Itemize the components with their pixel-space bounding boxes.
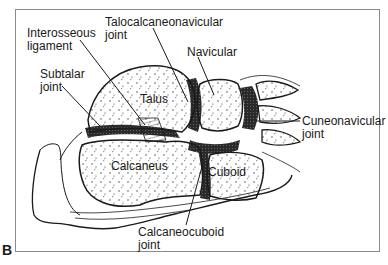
label-line: joint [302, 128, 385, 141]
label-interosseous-ligament: Interosseous ligament [27, 27, 96, 53]
label-line: ligament [27, 40, 96, 53]
label-navicular: Navicular [187, 46, 237, 59]
label-line: joint [138, 239, 224, 252]
label-line: joint [40, 81, 85, 94]
label-calcaneus: Calcaneus [111, 160, 168, 173]
label-talocalcaneonavicular-joint: Talocalcaneonavicular joint [105, 16, 223, 42]
navicular-bone [197, 80, 242, 131]
label-subtalar-joint: Subtalar joint [40, 68, 85, 94]
label-cuboid: Cuboid [208, 166, 246, 179]
label-talus: Talus [140, 93, 168, 106]
cuneiform-bones [256, 81, 300, 145]
panel-letter: B [2, 244, 12, 257]
label-calcaneocuboid-joint: Calcaneocuboid joint [138, 226, 224, 252]
calcaneus-bone [79, 140, 202, 206]
label-cuneonavicular-joint: Cuneonavicular joint [302, 115, 385, 141]
label-line: joint [105, 29, 223, 42]
